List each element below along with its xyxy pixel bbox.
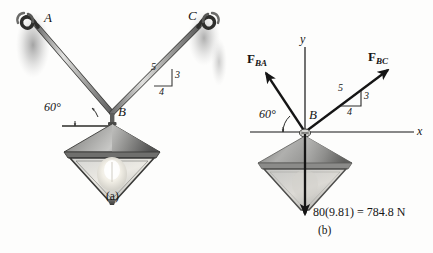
- force-symbol-fbc: F: [368, 49, 376, 64]
- slope-vertical-b: 3: [364, 91, 369, 101]
- force-label-fba: FBA: [247, 52, 267, 65]
- slope-horizontal-a: 4: [159, 87, 164, 97]
- angle-arc-b: [283, 116, 290, 132]
- slope-hypotenuse-a: 5: [151, 62, 156, 72]
- angle-label-a: 60°: [44, 101, 61, 113]
- point-label-b-a: B: [118, 105, 126, 118]
- force-subscript-fba: BA: [255, 58, 267, 68]
- vector-fbc: [305, 70, 388, 132]
- force-symbol-fba: F: [247, 51, 255, 66]
- point-label-a: A: [44, 11, 52, 24]
- angle-arc-a: [92, 108, 98, 117]
- point-label-b-fbd: B: [309, 108, 317, 121]
- panel-a-caption: (a): [106, 191, 119, 203]
- angle-label-b: 60°: [259, 108, 276, 120]
- slope-horizontal-b: 4: [347, 107, 352, 117]
- axis-label-x: x: [417, 125, 422, 137]
- slope-vertical-a: 3: [175, 70, 180, 80]
- panel-b-caption: (b): [318, 225, 331, 237]
- slope-hypotenuse-b: 5: [338, 83, 343, 93]
- force-subscript-fbc: BC: [376, 56, 388, 66]
- point-label-c: C: [188, 9, 197, 22]
- force-label-fbc: FBC: [368, 50, 388, 63]
- figure-canvas: A B C 60° 5 3 4 (a) FBA FBC y x 60° B 5 …: [0, 0, 433, 253]
- weight-force-label: 80(9.81) = 784.8 N: [313, 206, 405, 218]
- vector-fba: [266, 73, 305, 132]
- wall-shadow-fbd: [211, 38, 227, 86]
- axis-label-y: y: [300, 33, 305, 45]
